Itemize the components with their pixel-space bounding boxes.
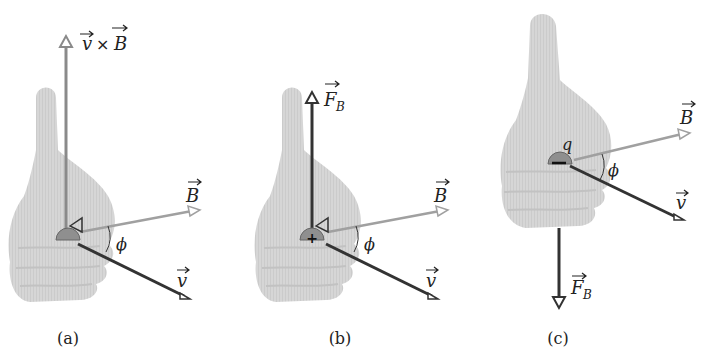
caption-c: (c) xyxy=(547,329,568,348)
panel-b: + F B B v ϕ (b) xyxy=(255,81,449,348)
label-b: B xyxy=(113,33,127,54)
phi-label-a: ϕ xyxy=(116,235,127,254)
right-hand-rule-diagram: v × B B v ϕ (a) + F B xyxy=(0,0,705,363)
q-label-c: q xyxy=(562,135,572,154)
hand-b xyxy=(255,88,361,303)
f-sub-c: B xyxy=(582,288,592,302)
b-arrowhead-a xyxy=(188,206,200,216)
f-sub-b: B xyxy=(335,100,345,114)
force-label-c: F B xyxy=(570,273,592,302)
force-label-b: F B xyxy=(323,81,345,114)
caption-b: (b) xyxy=(329,329,352,348)
phi-label-b: ϕ xyxy=(364,235,375,254)
label-times: × xyxy=(96,35,109,54)
hand-c xyxy=(501,14,612,228)
b-label-b: B xyxy=(433,185,447,206)
b-label-a: B xyxy=(185,185,199,206)
b-label-c: B xyxy=(679,107,693,128)
cross-product-label: v × B xyxy=(80,25,127,54)
panel-a: v × B B v ϕ (a) xyxy=(9,25,201,348)
caption-a: (a) xyxy=(57,329,79,348)
phi-label-c: ϕ xyxy=(608,161,619,180)
cross-product-arrowhead xyxy=(60,36,72,47)
charge-sign-b: + xyxy=(306,230,318,246)
hand-a xyxy=(9,88,115,303)
v-arrowhead-c xyxy=(674,214,684,220)
b-arrowhead-c xyxy=(678,129,690,139)
v-arrowhead-b xyxy=(428,293,438,299)
b-arrowhead-b xyxy=(436,206,448,216)
force-arrowhead-b xyxy=(306,92,318,103)
panel-c: q B v ϕ F B (c) xyxy=(501,14,695,348)
v-arrowhead-a xyxy=(180,293,190,299)
force-arrowhead-c xyxy=(553,297,565,308)
